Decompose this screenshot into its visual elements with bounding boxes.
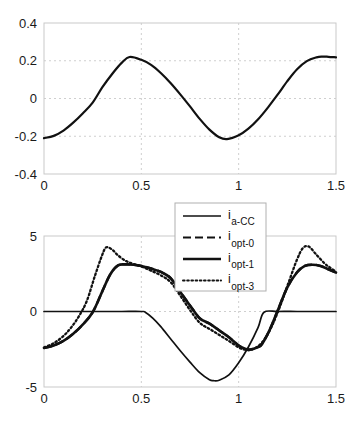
x-tick-label: 0 bbox=[40, 178, 47, 193]
x-tick-label: 1.5 bbox=[327, 178, 345, 193]
y-tick-label: 0 bbox=[30, 304, 37, 319]
y-tick-label: 5 bbox=[30, 229, 37, 244]
chart-legend[interactable]: ia-CCiopt-0iopt-1iopt-3 bbox=[175, 203, 266, 292]
y-tick-label: 0 bbox=[30, 91, 37, 106]
x-tick-label: 1 bbox=[235, 391, 242, 406]
x-tick-label: 0 bbox=[40, 391, 47, 406]
x-tick-label: 0.5 bbox=[132, 391, 150, 406]
y-tick-label: -0.2 bbox=[15, 129, 37, 144]
y-tick-label: 0.4 bbox=[19, 16, 37, 31]
x-tick-label: 1.5 bbox=[327, 391, 345, 406]
chart-canvas: 00.511.5-0.4-0.200.20.4 00.511.5-505 ia-… bbox=[0, 0, 363, 427]
y-tick-label: 0.2 bbox=[19, 53, 37, 68]
x-tick-label: 0.5 bbox=[132, 178, 150, 193]
x-tick-label: 1 bbox=[235, 178, 242, 193]
y-tick-label: -5 bbox=[25, 380, 37, 395]
figure-container: 00.511.5-0.4-0.200.20.4 00.511.5-505 ia-… bbox=[0, 0, 363, 427]
y-tick-label: -0.4 bbox=[15, 167, 37, 182]
